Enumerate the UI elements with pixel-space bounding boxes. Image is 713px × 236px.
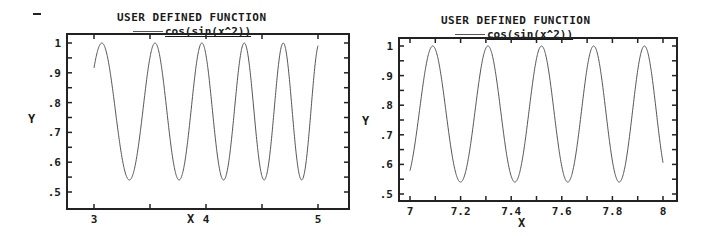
y-tick-label: .5	[380, 188, 393, 201]
x-tick-label: 7.2	[451, 205, 471, 218]
plot-frame	[67, 34, 349, 209]
y-tick-label: .7	[380, 129, 393, 142]
y-tick-label: .6	[380, 158, 394, 171]
plot-0: .5.6.7.8.91345	[48, 34, 349, 226]
x-tick-label: 8	[660, 205, 667, 218]
y-tick-label: 1	[54, 37, 61, 50]
y-tick-label: .9	[380, 70, 393, 83]
y-tick-label: .6	[48, 156, 62, 169]
x-tick-label: 5	[315, 213, 322, 226]
function-curve	[94, 43, 318, 180]
y-tick-label: .8	[380, 99, 393, 112]
y-tick-label: 1	[386, 40, 393, 53]
y-tick-label: .7	[48, 126, 61, 139]
x-tick-label: 7.4	[501, 205, 521, 218]
x-tick-label: 7	[407, 205, 414, 218]
function-curve	[410, 46, 663, 182]
x-tick-label: 7.8	[602, 205, 622, 218]
plot-frame	[399, 38, 677, 201]
x-tick-label: 3	[91, 213, 98, 226]
y-tick-label: .5	[48, 186, 61, 199]
x-tick-label: 4	[203, 213, 210, 226]
plot-area: .5.6.7.8.91345.5.6.7.8.9177.27.47.67.88	[0, 0, 713, 236]
y-tick-label: .9	[48, 67, 61, 80]
x-tick-label: 7.6	[552, 205, 572, 218]
plot-1: .5.6.7.8.9177.27.47.67.88	[380, 38, 677, 218]
y-tick-label: .8	[48, 97, 61, 110]
